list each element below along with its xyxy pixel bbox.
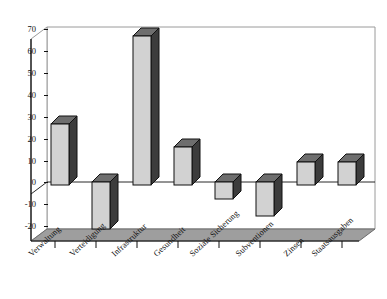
- bar-soziale-sicherung[interactable]: [215, 174, 241, 199]
- bar-staatsausgaben[interactable]: [338, 154, 364, 185]
- bar-gesundheit[interactable]: [174, 139, 200, 185]
- bar-infrastruktur[interactable]: [133, 28, 159, 185]
- bar-verwaltung[interactable]: [51, 116, 77, 185]
- chart-container: 70 60 50 40 30 20 10 0 -10 -20: [0, 0, 387, 299]
- bar-subventionen[interactable]: [256, 174, 282, 216]
- bar-zinsen[interactable]: [297, 154, 323, 185]
- bar-verteidigung[interactable]: [92, 174, 118, 229]
